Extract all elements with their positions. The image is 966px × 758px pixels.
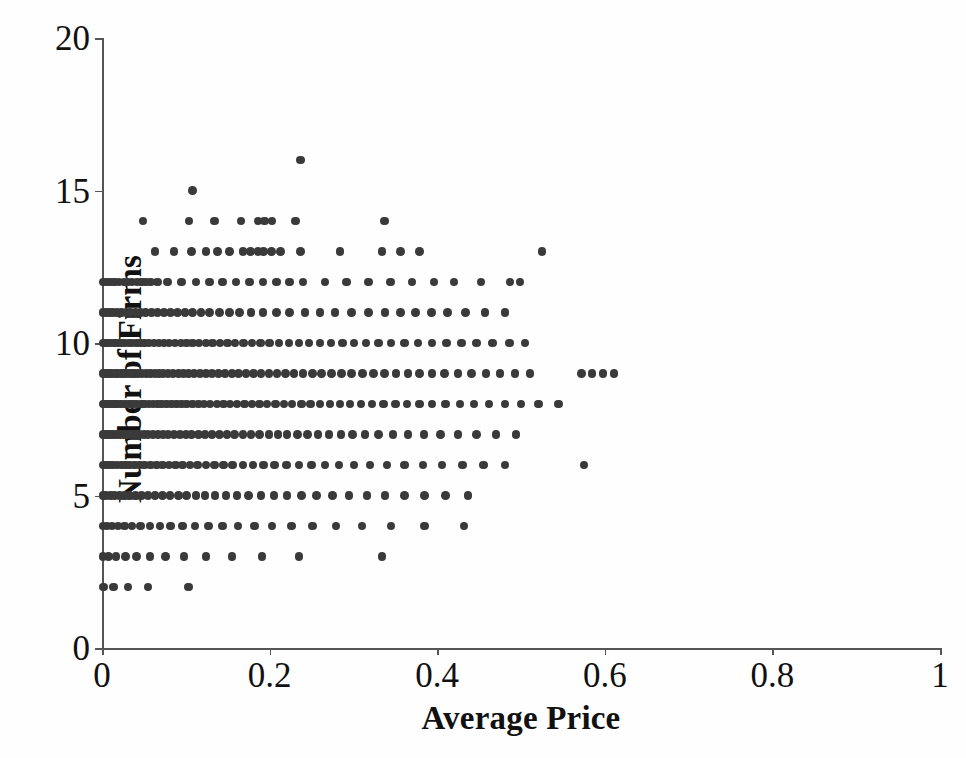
data-point [265,339,274,348]
x-tick-label: 0.8 [751,658,795,693]
data-point [454,430,463,439]
data-point [144,583,153,592]
data-point [316,308,325,317]
data-point [210,217,219,226]
data-point [327,369,336,378]
data-point [299,278,308,287]
data-point [283,430,292,439]
data-point [436,430,445,439]
data-point [464,491,473,500]
data-point [270,491,279,500]
data-point [230,430,239,439]
data-point [193,461,202,470]
data-point [457,339,466,348]
data-point [185,217,194,226]
data-point [265,369,274,378]
x-tick [772,648,774,655]
data-point [526,369,535,378]
data-point [259,278,268,287]
data-point [146,552,155,561]
data-point [347,308,356,317]
data-point [501,308,510,317]
data-point [273,369,282,378]
data-point [146,522,155,531]
data-point [291,217,300,226]
data-point [268,522,277,531]
data-point [511,369,520,378]
data-point [345,491,354,500]
data-point [408,278,417,287]
data-point [244,491,253,500]
data-point [163,278,172,287]
data-point [332,522,341,531]
data-point [404,430,413,439]
data-point [151,247,160,256]
data-point [396,247,405,256]
data-point [331,308,340,317]
data-point [538,247,547,256]
data-point [506,278,515,287]
data-point [188,308,197,317]
x-tick [437,648,439,655]
data-point [496,369,505,378]
data-point [112,552,121,561]
data-point [274,430,283,439]
data-point [296,247,305,256]
data-point [420,430,429,439]
data-point [335,461,344,470]
data-point [336,247,345,256]
data-point [248,339,257,348]
data-point [259,461,268,470]
data-point [239,339,248,348]
data-point [428,400,437,409]
data-point [521,339,530,348]
data-point [275,339,284,348]
data-point [187,247,196,256]
data-point [124,583,133,592]
data-point [272,278,281,287]
data-point [517,400,526,409]
data-point [415,369,424,378]
data-point [250,522,259,531]
data-point [470,400,479,409]
data-point [414,339,423,348]
data-point [361,430,370,439]
x-tick-label: 0 [93,658,111,693]
data-point [201,491,210,500]
data-point [281,369,290,378]
data-point [305,339,314,348]
data-point [180,552,189,561]
y-tick-label: 15 [55,173,90,208]
data-point [472,430,481,439]
data-point [378,552,387,561]
data-point [400,339,409,348]
data-point [156,522,165,531]
data-point [225,247,234,256]
data-point [257,491,266,500]
data-point [419,461,428,470]
data-point [387,339,396,348]
data-point [235,308,244,317]
data-point [271,400,280,409]
data-point [295,552,304,561]
data-point [308,522,317,531]
data-point [249,461,258,470]
data-point [191,522,200,531]
data-point [215,308,224,317]
data-point [161,552,170,561]
data-point [350,461,359,470]
data-point [132,552,141,561]
data-point [234,522,243,531]
data-point [297,400,306,409]
data-point [440,369,449,378]
data-point [610,369,619,378]
data-point [554,400,563,409]
data-point [427,308,436,317]
data-point [492,430,501,439]
data-point [374,339,383,348]
data-point [357,400,366,409]
data-point [350,339,359,348]
data-point [283,491,292,500]
data-point [255,430,264,439]
data-point [326,400,335,409]
